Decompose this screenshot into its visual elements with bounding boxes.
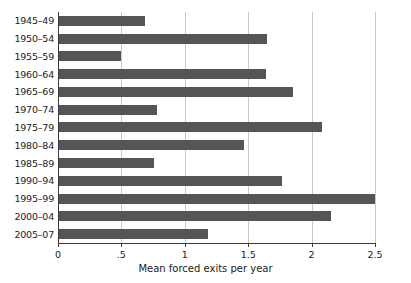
bar: [58, 176, 282, 186]
y-axis-category-labels: 1945–491950–541955–591960–641965–691970–…: [0, 12, 54, 243]
x-axis-tick-label: 2: [309, 249, 315, 260]
y-axis-label: 1990–94: [0, 172, 54, 190]
bar-series: [58, 12, 375, 243]
x-axis-tick-label: 2.5: [367, 249, 382, 260]
bar-row: [58, 190, 375, 208]
bar-row: [58, 83, 375, 101]
y-axis-label: 1950–54: [0, 30, 54, 48]
x-axis-tick-label: 1: [182, 249, 188, 260]
y-axis-label: 1980–84: [0, 136, 54, 154]
x-axis-tick: [58, 243, 59, 247]
plot-area: [58, 12, 375, 243]
bar: [58, 51, 121, 61]
y-axis-label: 1995–99: [0, 190, 54, 208]
y-axis-label: 1985–89: [0, 154, 54, 172]
bar-row: [58, 172, 375, 190]
bar: [58, 69, 266, 79]
bar-row: [58, 48, 375, 66]
y-axis-label: 2000–04: [0, 207, 54, 225]
x-axis-tick: [185, 243, 186, 247]
x-axis-line: [58, 243, 376, 244]
bar-row: [58, 225, 375, 243]
bar-row: [58, 12, 375, 30]
bar: [58, 87, 293, 97]
x-axis-tick: [248, 243, 249, 247]
y-axis-label: 1945–49: [0, 12, 54, 30]
bar: [58, 194, 375, 204]
x-axis-tick: [312, 243, 313, 247]
bar-row: [58, 207, 375, 225]
bar-row: [58, 101, 375, 119]
bar: [58, 34, 267, 44]
x-axis-tick-label: 1.5: [241, 249, 256, 260]
bar-row: [58, 119, 375, 137]
x-axis-title: Mean forced exits per year: [0, 263, 411, 274]
bar: [58, 105, 157, 115]
y-axis-label: 1975–79: [0, 119, 54, 137]
x-axis-tick-label: .5: [117, 249, 126, 260]
gridline: [375, 12, 376, 243]
bar: [58, 158, 154, 168]
y-axis-label: 1955–59: [0, 48, 54, 66]
y-axis-label: 1960–64: [0, 65, 54, 83]
y-axis-label: 1965–69: [0, 83, 54, 101]
bar-row: [58, 136, 375, 154]
bar: [58, 211, 331, 221]
bar-row: [58, 30, 375, 48]
bar: [58, 229, 208, 239]
x-axis-tick-label: 0: [55, 249, 61, 260]
y-axis-line: [58, 12, 59, 243]
bar-chart: 1945–491950–541955–591960–641965–691970–…: [0, 0, 411, 283]
bar: [58, 122, 322, 132]
y-axis-label: 1970–74: [0, 101, 54, 119]
bar-row: [58, 154, 375, 172]
bar: [58, 16, 145, 26]
bar: [58, 140, 244, 150]
bar-row: [58, 65, 375, 83]
y-axis-label: 2005–07: [0, 225, 54, 243]
x-axis-tick: [375, 243, 376, 247]
x-axis-tick: [121, 243, 122, 247]
